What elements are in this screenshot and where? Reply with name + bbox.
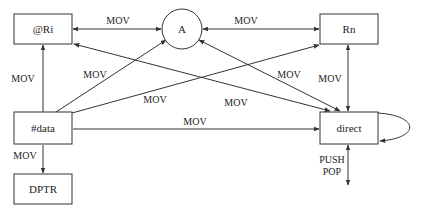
- label-a-rn: MOV: [234, 15, 258, 26]
- label-push: PUSH: [319, 154, 345, 165]
- node-direct-label: direct: [336, 122, 361, 134]
- label-data-rn: MOV: [143, 94, 167, 105]
- label-data-dptr: MOV: [13, 150, 37, 161]
- node-rn-label: Rn: [343, 23, 356, 35]
- node-data-label: #data: [31, 122, 55, 134]
- label-data-direct: MOV: [183, 116, 207, 127]
- label-a-direct: MOV: [277, 69, 301, 80]
- label-ri-a: MOV: [106, 15, 130, 26]
- label-data-ri: MOV: [11, 73, 35, 84]
- label-pop: POP: [323, 166, 342, 177]
- label-rn-direct: MOV: [318, 73, 342, 84]
- node-ri-label: @Ri: [33, 23, 54, 35]
- label-ri-direct: MOV: [224, 97, 248, 108]
- node-dptr-label: DPTR: [29, 183, 58, 195]
- mov-instruction-diagram: @Ri A Rn #data direct DPTR MOV MOV MOV M…: [0, 0, 425, 213]
- label-data-a: MOV: [83, 69, 107, 80]
- node-a-label: A: [178, 23, 186, 35]
- edge-direct-self: [378, 113, 410, 141]
